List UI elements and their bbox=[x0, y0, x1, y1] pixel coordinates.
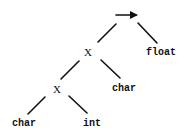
type-tree-diagram: X float X char char int bbox=[0, 0, 186, 136]
edge-x-lower-to-int bbox=[69, 96, 87, 113]
edge-root-to-float bbox=[138, 23, 157, 43]
edge-root-to-x-upper bbox=[98, 24, 116, 42]
tree-edges bbox=[0, 0, 186, 136]
node-char-mid: char bbox=[112, 84, 136, 94]
node-float: float bbox=[146, 48, 176, 58]
node-int: int bbox=[83, 119, 101, 129]
node-char-bottom: char bbox=[12, 119, 36, 129]
node-x-lower: X bbox=[53, 84, 61, 95]
edge-x-upper-to-char-mid bbox=[101, 60, 120, 78]
edge-x-upper-to-x-lower bbox=[61, 61, 79, 79]
edge-x-lower-to-char-bottom bbox=[28, 97, 45, 114]
node-x-upper: X bbox=[84, 47, 92, 58]
